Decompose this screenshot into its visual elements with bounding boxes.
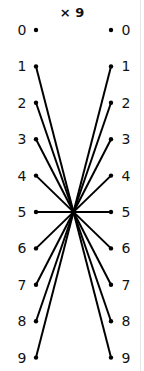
left-digit-label: 5 — [18, 204, 27, 220]
left-dot — [34, 173, 38, 177]
multiplication-diagram: × 9 0123456789 0123456789 — [0, 0, 144, 371]
left-dot — [34, 101, 38, 105]
right-digit-label: 5 — [122, 204, 131, 220]
left-dot — [34, 283, 38, 287]
right-digit-label: 9 — [122, 350, 131, 366]
right-dot — [109, 137, 113, 141]
right-column: 0123456789 — [109, 22, 131, 366]
right-digit-label: 3 — [122, 131, 131, 147]
right-digit-label: 2 — [122, 95, 131, 111]
right-dot — [109, 28, 113, 32]
right-dot — [109, 101, 113, 105]
left-dot — [34, 64, 38, 68]
left-dot — [34, 210, 38, 214]
left-digit-label: 2 — [18, 95, 27, 111]
left-dot — [34, 246, 38, 250]
left-dot — [34, 319, 38, 323]
left-digit-label: 6 — [18, 240, 27, 256]
diagram-title: × 9 — [60, 5, 84, 20]
right-dot — [109, 64, 113, 68]
left-digit-label: 0 — [18, 22, 27, 38]
right-digit-label: 0 — [122, 22, 131, 38]
right-digit-label: 1 — [122, 58, 131, 74]
right-dot — [109, 283, 113, 287]
right-dot — [109, 210, 113, 214]
left-digit-label: 4 — [18, 168, 27, 184]
left-digit-label: 8 — [18, 313, 27, 329]
right-dot — [109, 355, 113, 359]
right-dot — [109, 246, 113, 250]
right-digit-label: 4 — [122, 168, 131, 184]
digit-mapping-svg: × 9 0123456789 0123456789 — [0, 0, 144, 371]
left-dot — [34, 137, 38, 141]
left-column: 0123456789 — [18, 22, 39, 366]
left-digit-label: 9 — [18, 350, 27, 366]
left-digit-label: 3 — [18, 131, 27, 147]
left-digit-label: 7 — [18, 277, 27, 293]
right-dot — [109, 319, 113, 323]
right-digit-label: 7 — [122, 277, 131, 293]
left-dot — [34, 28, 38, 32]
connection-lines — [36, 66, 111, 357]
right-dot — [109, 173, 113, 177]
left-dot — [34, 355, 38, 359]
right-digit-label: 8 — [122, 313, 131, 329]
left-digit-label: 1 — [18, 58, 27, 74]
right-digit-label: 6 — [122, 240, 131, 256]
